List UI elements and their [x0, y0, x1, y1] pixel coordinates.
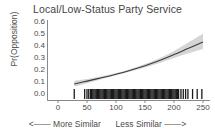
x-tick-label: 150	[138, 104, 151, 112]
x-tick-label: 50	[83, 104, 92, 112]
axis-lines	[48, 20, 211, 101]
x-axis-annotation-left: <—— More Similar	[29, 119, 101, 129]
x-tick-label: 100	[109, 104, 122, 112]
confidence-band	[74, 34, 203, 87]
x-tick-label: 250	[196, 104, 209, 112]
plot-area	[0, 0, 215, 137]
rug-marks	[74, 89, 202, 99]
chart-figure: Local/Low-Status Party Service Pr(Opposi…	[0, 0, 215, 137]
x-axis-tick-labels: 0 50 100 150 200 250	[0, 104, 215, 116]
x-axis-annotation: <—— More Similar Less Similar ——>	[0, 119, 215, 129]
x-tick-label: 0	[56, 104, 60, 112]
x-axis-annotation-right: Less Similar ——>	[116, 119, 187, 129]
x-tick-label: 200	[167, 104, 180, 112]
